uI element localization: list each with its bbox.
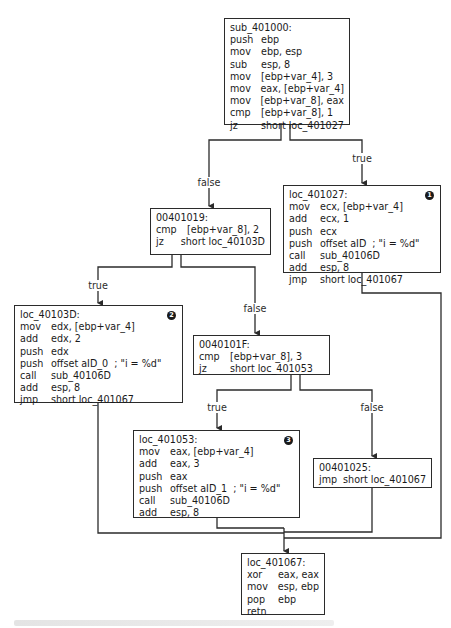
opcode: push	[289, 238, 320, 250]
instruction-row: pushoffset aID_0; "i = %d"	[20, 358, 177, 370]
instruction-row: pushebp	[230, 34, 344, 46]
instruction-row: subesp, 8	[230, 59, 344, 71]
instruction-row: cmp[ebp+var_8], 3	[199, 351, 324, 363]
instruction-row: jzshort loc_40103D	[156, 236, 265, 248]
operands: [ebp+var_8], eax	[260, 95, 344, 107]
instruction-row: mov[ebp+var_4], 3	[230, 71, 344, 83]
operands: offset aID_1	[170, 483, 227, 495]
instruction-row: addesp, 8	[139, 507, 294, 519]
opcode: cmp	[156, 224, 187, 236]
instruction-row: movecx, [ebp+var_4]	[289, 201, 435, 213]
operands: ebp	[261, 34, 279, 46]
edge-true-00401019-to-loc40103D	[98, 255, 172, 303]
opcode: push	[20, 346, 51, 358]
opcode: jz	[199, 363, 230, 375]
operands: edx, 2	[51, 333, 81, 345]
operands: sub_40106D	[320, 250, 380, 262]
instruction-row: addecx, 1	[289, 213, 435, 225]
block-label: sub_401000:	[230, 22, 344, 34]
opcode: add	[289, 213, 320, 225]
opcode: call	[20, 370, 51, 382]
block-label: loc_401067:	[247, 557, 319, 569]
opcode: mov	[139, 446, 170, 458]
opcode: add	[20, 333, 51, 345]
instruction-row: pushecx	[289, 226, 435, 238]
operands: short loc_401067	[51, 394, 134, 406]
edge-label-false: false	[196, 177, 223, 188]
operands: offset aID_0	[51, 358, 108, 370]
instruction-row: pushedx	[20, 346, 177, 358]
callout-badge-3: 3	[284, 436, 293, 445]
operands: short loc_401067	[320, 274, 403, 286]
opcode: mov	[247, 581, 278, 593]
instruction-row: jmpshort loc_401067	[20, 394, 177, 406]
opcode: push	[230, 34, 261, 46]
opcode: add	[139, 458, 170, 470]
instruction-row: callsub_40106D	[289, 250, 435, 262]
operands: eax, eax	[278, 569, 319, 581]
opcode: mov	[289, 201, 320, 213]
operands: edx	[51, 346, 69, 358]
instruction-row: popebp	[247, 594, 319, 606]
block-0040101F: 0040101F: cmp[ebp+var_8], 3 jzshort loc_…	[193, 335, 330, 375]
operands: ebp	[278, 594, 296, 606]
comment: ; "i = %d"	[233, 483, 280, 495]
operands: eax	[170, 471, 187, 483]
opcode: cmp	[199, 351, 230, 363]
operands: sub_40106D	[51, 370, 111, 382]
callout-badge-2: 2	[167, 311, 176, 320]
instruction-row: pushoffset aID_1; "i = %d"	[139, 483, 294, 495]
operands: [ebp+var_8], 2	[187, 224, 259, 236]
opcode: add	[289, 262, 320, 274]
operands: esp, 8	[261, 59, 290, 71]
instruction-row: moveax, [ebp+var_4]	[230, 83, 344, 95]
opcode: mov	[230, 46, 261, 58]
opcode: mov	[20, 321, 51, 333]
operands: eax, [ebp+var_4]	[260, 83, 344, 95]
instruction-row: addesp, 8	[20, 382, 177, 394]
opcode: jmp	[20, 394, 51, 406]
operands: sub_40106D	[170, 495, 230, 507]
opcode: call	[289, 250, 320, 262]
instruction-row: callsub_40106D	[20, 370, 177, 382]
instruction-row: retn	[247, 606, 319, 618]
block-sub-401000: sub_401000: pushebp movebp, esp subesp, …	[224, 18, 350, 125]
block-label: 0040101F:	[199, 339, 324, 351]
block-loc-401027: 1 loc_401027: movecx, [ebp+var_4] addecx…	[283, 185, 441, 273]
opcode: xor	[247, 569, 278, 581]
block-label: loc_401053:	[139, 434, 294, 446]
instruction-row: xoreax, eax	[247, 569, 319, 581]
instruction-row: movedx, [ebp+var_4]	[20, 321, 177, 333]
block-label: 00401019:	[156, 212, 265, 224]
edge-loc401053-to-loc401067	[217, 518, 284, 528]
comment: ; "i = %d"	[372, 238, 419, 250]
block-label: loc_401027:	[289, 189, 435, 201]
operands: eax, 3	[170, 458, 200, 470]
cropped-caption-strip	[14, 620, 334, 626]
instruction-row: cmp[ebp+var_8], 1	[230, 107, 344, 119]
instruction-row: callsub_40106D	[139, 495, 294, 507]
operands: esp, 8	[51, 382, 80, 394]
opcode: jz	[156, 236, 181, 248]
instruction-row: jmpshort loc_401067	[319, 474, 426, 486]
edge-label-true: true	[205, 402, 229, 413]
block-loc-401053: 3 loc_401053: moveax, [ebp+var_4] addeax…	[133, 430, 300, 518]
operands: [ebp+var_4], 3	[261, 71, 333, 83]
opcode: push	[289, 226, 320, 238]
edge-false-0040101F-to-00401025	[300, 375, 372, 456]
edge-label-false: false	[242, 303, 269, 314]
block-loc-40103D: 2 loc_40103D: movedx, [ebp+var_4] addedx…	[14, 305, 183, 403]
operands: short loc_401027	[261, 120, 344, 132]
opcode: jmp	[289, 274, 320, 286]
operands: short loc_401067	[343, 474, 426, 486]
operands: ecx	[320, 226, 337, 238]
opcode: mov	[230, 95, 260, 107]
opcode: sub	[230, 59, 261, 71]
instruction-row: addeax, 3	[139, 458, 294, 470]
instruction-row: movesp, ebp	[247, 581, 319, 593]
edge-label-true: true	[350, 153, 374, 164]
instruction-row: jmpshort loc_401067	[289, 274, 435, 286]
opcode: jmp	[319, 474, 343, 486]
instruction-row: movebp, esp	[230, 46, 344, 58]
operands: esp, ebp	[278, 581, 319, 593]
